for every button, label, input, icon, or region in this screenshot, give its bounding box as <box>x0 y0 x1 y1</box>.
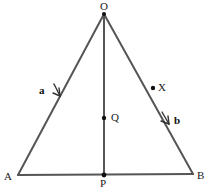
segment-OB <box>104 14 193 174</box>
point-label-Q: Q <box>111 112 119 123</box>
figure-canvas <box>0 0 208 190</box>
vertex-label-B: B <box>197 170 204 181</box>
vector-label-b: b <box>174 115 180 126</box>
point-dot-X <box>151 86 155 90</box>
vertex-label-O: O <box>100 1 108 12</box>
point-dot-Q <box>102 116 106 120</box>
point-label-X: X <box>158 82 166 93</box>
vector-a-arrowhead <box>53 84 60 96</box>
geometry-figure: O A B P Q X a b <box>0 0 208 190</box>
vector-label-a: a <box>39 85 45 96</box>
vertex-label-A: A <box>4 171 12 182</box>
segment-OA <box>18 14 104 175</box>
point-label-P: P <box>100 178 106 189</box>
vertex-dot-O <box>102 12 106 16</box>
